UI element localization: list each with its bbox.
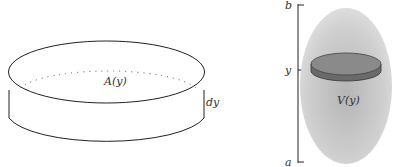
diagram-canvas: A(y) dy b y a V(y) <box>0 0 419 167</box>
slice-top <box>311 53 381 75</box>
axis-label-y: y <box>284 64 292 77</box>
axis-label-b: b <box>285 0 292 12</box>
disk-top-face <box>9 41 205 103</box>
axis-label-a: a <box>285 156 292 167</box>
solid-body <box>300 8 392 164</box>
thickness-label: dy <box>206 96 220 109</box>
disk-figure: A(y) dy <box>9 41 221 141</box>
solid-figure: b y a V(y) <box>284 0 392 167</box>
volume-label: V(y) <box>337 94 360 107</box>
area-label: A(y) <box>103 75 127 88</box>
